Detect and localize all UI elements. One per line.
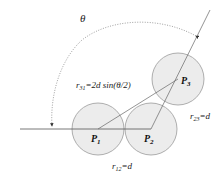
r31-label: r31=2d sin(θ/2) bbox=[76, 80, 131, 91]
r12-label: r12=d bbox=[112, 161, 133, 172]
theta-label: θ bbox=[80, 12, 86, 24]
geometry-diagram: θ r31=2d sin(θ/2) r23=d r12=d P1 P2 P3 bbox=[0, 0, 224, 180]
r23-label: r23=d bbox=[190, 111, 211, 122]
diagram-canvas: θ r31=2d sin(θ/2) r23=d r12=d P1 P2 P3 bbox=[0, 0, 224, 180]
